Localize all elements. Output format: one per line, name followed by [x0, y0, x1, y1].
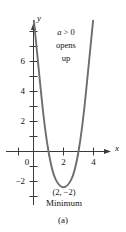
y-tick-label-2: 2	[11, 117, 25, 126]
annotation-a-greater-zero: a > 0	[45, 28, 87, 37]
figure-caption: (a)	[0, 216, 126, 225]
x-tick-label-0: 0	[22, 158, 32, 167]
y-axis-label: y	[37, 14, 41, 23]
x-axis-label: x	[115, 144, 119, 153]
annotation-opens: opens	[45, 41, 87, 50]
vertex-coordinate-label: (2, −2)	[40, 188, 88, 197]
x-tick-label-2: 2	[58, 158, 69, 167]
x-tick-label-4: 4	[88, 158, 99, 167]
minimum-label: Minimum	[36, 199, 92, 208]
y-tick-label-minus-2: −2	[8, 177, 25, 186]
y-tick-label-4: 4	[11, 87, 25, 96]
annotation-up: up	[45, 54, 87, 63]
annotation-relation: > 0	[61, 27, 74, 37]
y-tick-label-6: 6	[11, 57, 25, 66]
figure-panel: 6 4 2 −2 0 2 4 y x a > 0 opens up (2, −2…	[0, 0, 126, 232]
